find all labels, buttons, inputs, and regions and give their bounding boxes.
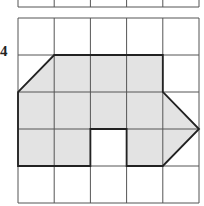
- grid-shape-diagram: [0, 0, 204, 206]
- shaded-polygon: [18, 55, 199, 166]
- previous-grid-stub: [18, 0, 199, 7]
